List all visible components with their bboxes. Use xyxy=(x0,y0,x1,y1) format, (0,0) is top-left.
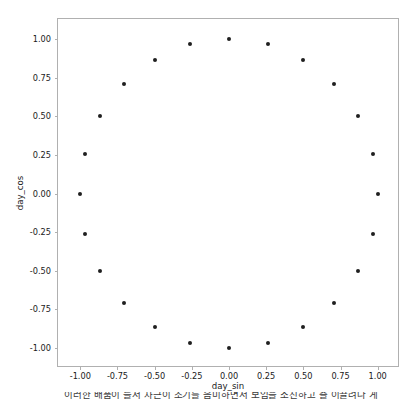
scatter-point xyxy=(376,192,380,196)
y-tick-label: -0.25 xyxy=(30,227,51,237)
scatter-series-day-sin-cos xyxy=(58,19,398,366)
x-tick-mark xyxy=(341,366,342,370)
x-axis-label: day_sin xyxy=(57,381,399,391)
scatter-point xyxy=(153,58,157,62)
scatter-point xyxy=(227,346,231,350)
plot-axes: -1.00-0.75-0.50-0.250.000.250.500.751.00… xyxy=(57,18,399,367)
y-tick-mark xyxy=(55,194,59,195)
scatter-point xyxy=(188,42,192,46)
scatter-point xyxy=(83,232,87,236)
x-tick-label: 0.50 xyxy=(294,371,312,381)
x-tick-label: 1.00 xyxy=(369,371,387,381)
x-tick-label: 0.00 xyxy=(220,371,238,381)
y-tick-mark xyxy=(55,39,59,40)
caption-body: 이러한 배품이 들서 차근이 조기를 음미하면서 보임을 소진하고 즐 이끌려나… xyxy=(64,392,378,400)
x-tick-mark xyxy=(266,366,267,370)
scatter-point xyxy=(301,58,305,62)
figure-page: -1.00-0.75-0.50-0.250.000.250.500.751.00… xyxy=(0,0,416,406)
scatter-point xyxy=(332,82,336,86)
x-tick-mark xyxy=(303,366,304,370)
y-tick-mark xyxy=(55,155,59,156)
y-tick-mark xyxy=(55,348,59,349)
scatter-point xyxy=(83,152,87,156)
x-tick-mark xyxy=(192,366,193,370)
scatter-point xyxy=(122,82,126,86)
caption-text: 이러한 배품이 들서 차근이 조기를 음미하면서 보임을 소진하고 즐 이끌려나… xyxy=(0,392,416,401)
scatter-point xyxy=(266,42,270,46)
scatter-point xyxy=(153,325,157,329)
x-tick-mark xyxy=(80,366,81,370)
scatter-point xyxy=(266,341,270,345)
y-tick-mark xyxy=(55,232,59,233)
scatter-point xyxy=(122,301,126,305)
x-tick-label: -0.50 xyxy=(144,371,165,381)
y-tick-mark xyxy=(55,309,59,310)
scatter-point xyxy=(98,114,102,118)
scatter-point xyxy=(98,269,102,273)
x-tick-mark xyxy=(229,366,230,370)
scatter-point xyxy=(301,325,305,329)
matplotlib-figure: -1.00-0.75-0.50-0.250.000.250.500.751.00… xyxy=(0,0,416,392)
scatter-point xyxy=(371,152,375,156)
scatter-point xyxy=(78,192,82,196)
x-tick-mark xyxy=(378,366,379,370)
y-tick-label: 0.75 xyxy=(33,73,51,83)
x-tick-label: 0.75 xyxy=(331,371,349,381)
y-tick-label: -0.50 xyxy=(30,266,51,276)
y-axis-label-text: day_cos xyxy=(15,175,25,210)
y-tick-mark xyxy=(55,116,59,117)
scatter-point xyxy=(227,37,231,41)
y-tick-label: 0.25 xyxy=(33,150,51,160)
scatter-point xyxy=(188,341,192,345)
x-tick-label: -0.25 xyxy=(181,371,202,381)
y-tick-mark xyxy=(55,78,59,79)
x-tick-label: -1.00 xyxy=(70,371,91,381)
x-tick-mark xyxy=(155,366,156,370)
scatter-point xyxy=(332,301,336,305)
y-tick-label: 0.50 xyxy=(33,111,51,121)
scatter-point xyxy=(356,269,360,273)
y-tick-label: 0.00 xyxy=(33,189,51,199)
scatter-point xyxy=(356,114,360,118)
x-tick-label: -0.75 xyxy=(107,371,128,381)
caption-strip: 이러한 배품이 들서 차근이 조기를 음미하면서 보임을 소진하고 즐 이끌려나… xyxy=(0,392,416,406)
y-axis-label: day_cos xyxy=(14,18,26,367)
y-tick-label: 1.00 xyxy=(33,34,51,44)
x-tick-label: 0.25 xyxy=(257,371,275,381)
scatter-point xyxy=(371,232,375,236)
y-tick-label: -1.00 xyxy=(30,343,51,353)
y-tick-label: -0.75 xyxy=(30,304,51,314)
x-tick-mark xyxy=(117,366,118,370)
y-tick-mark xyxy=(55,271,59,272)
